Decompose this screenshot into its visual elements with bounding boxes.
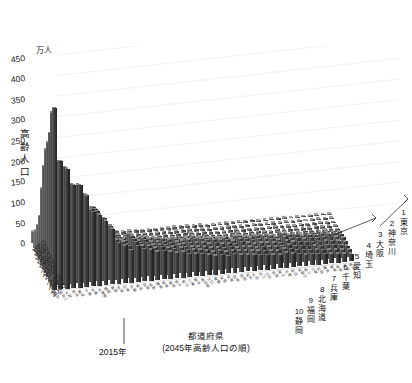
chart-canvas: 万人 高 齢 人 口 050100150200250300350400450 1…	[0, 0, 412, 383]
rank-number: 10	[295, 307, 304, 316]
bar	[78, 185, 82, 288]
bar	[142, 249, 146, 281]
bar	[316, 254, 320, 265]
bar	[205, 225, 209, 227]
bar	[323, 254, 327, 264]
bar	[129, 250, 133, 283]
bar	[258, 224, 262, 226]
bar	[329, 218, 333, 219]
rank-number: 9	[306, 296, 315, 305]
bar	[327, 214, 331, 215]
rank-prefecture-name: 愛知	[353, 262, 361, 280]
rank-number: 8	[318, 285, 327, 294]
bar	[265, 224, 269, 226]
bar	[187, 254, 191, 277]
bar	[289, 217, 293, 218]
bar	[104, 221, 108, 285]
rank-number: 7	[329, 274, 338, 283]
bar	[303, 220, 307, 221]
bar	[211, 224, 215, 226]
y-axis-tick-label: 150	[0, 176, 25, 189]
bar	[291, 221, 295, 223]
y-axis-tick-label: 0	[0, 238, 25, 251]
rank-callout-6: 6千葉	[341, 263, 350, 291]
rank-prefecture-name: 千葉	[342, 273, 350, 291]
y-axis-tick-label: 100	[0, 197, 25, 210]
bar	[271, 254, 275, 268]
bar	[291, 253, 295, 267]
bar	[342, 253, 346, 262]
bar	[97, 215, 101, 286]
bar	[301, 216, 305, 217]
bar	[233, 254, 237, 273]
bar	[250, 220, 254, 222]
y-axis-tick-label: 450	[0, 53, 25, 66]
plot-area	[58, 46, 402, 294]
rank-prefecture-name: 東京	[400, 218, 408, 236]
rank-callout-5: 5愛知	[353, 252, 362, 280]
rank-callout-1: 1東京	[399, 208, 408, 236]
bar	[284, 222, 288, 224]
rank-prefecture-name: 神奈川	[388, 229, 396, 256]
bar	[84, 195, 88, 287]
bar	[304, 254, 308, 266]
bar	[265, 255, 269, 269]
bar	[269, 219, 273, 221]
bar	[220, 255, 224, 274]
bar	[162, 251, 166, 279]
rank-callout-3: 3大阪	[376, 230, 385, 258]
rank-callout-8: 8北海道	[318, 285, 327, 322]
bar	[256, 220, 260, 221]
bar	[276, 218, 280, 220]
rank-callout-2: 2神奈川	[387, 219, 396, 256]
y-axis-tick-label: 50	[0, 218, 25, 231]
bar	[239, 254, 243, 272]
bar	[278, 255, 282, 269]
rank-number: 4	[364, 241, 373, 250]
bar	[149, 249, 153, 280]
bar	[316, 219, 320, 221]
bar	[168, 252, 172, 279]
x-axis-title-note: (2045年高齢人口の順)	[0, 342, 412, 354]
rank-prefecture-name: 福岡	[307, 306, 315, 324]
rank-number: 1	[399, 208, 408, 217]
y-axis-tick-label: 350	[0, 94, 25, 107]
bar	[314, 215, 318, 216]
rank-number: 6	[341, 263, 350, 272]
bar	[263, 220, 267, 221]
rank-callout-9: 9福岡	[306, 296, 315, 324]
bar-series-layer	[58, 46, 402, 294]
bar	[117, 243, 121, 284]
bar	[213, 256, 217, 275]
bar	[155, 251, 159, 280]
bar	[310, 254, 314, 265]
bar	[323, 218, 327, 220]
bar	[310, 219, 314, 221]
bar	[331, 222, 335, 223]
y-axis-tick-label: 300	[0, 114, 25, 127]
bar	[194, 254, 198, 277]
x-axis-title: 都道府県 (2045年高齢人口の順)	[0, 330, 412, 354]
rank-prefecture-name: 北海道	[318, 295, 326, 322]
bar	[278, 222, 282, 224]
bar	[91, 212, 95, 286]
bar	[207, 255, 211, 276]
bar	[237, 222, 241, 224]
bar	[110, 229, 114, 285]
bar	[175, 253, 179, 279]
rank-number: 5	[353, 252, 362, 261]
rank-prefecture-name: 兵庫	[330, 284, 338, 302]
rank-callout-7: 7兵庫	[329, 274, 338, 302]
bar	[297, 220, 301, 222]
bar	[123, 245, 127, 283]
rank-prefecture-name: 大阪	[376, 240, 384, 258]
y-axis-tick-label: 400	[0, 73, 25, 86]
rank-number: 2	[387, 219, 396, 228]
rank-number: 3	[376, 230, 385, 239]
rank-prefecture-name: 埼玉	[365, 251, 373, 269]
bar	[252, 255, 256, 271]
bar	[136, 246, 140, 282]
bar	[246, 255, 250, 272]
bar	[308, 215, 312, 216]
bar	[295, 217, 299, 218]
